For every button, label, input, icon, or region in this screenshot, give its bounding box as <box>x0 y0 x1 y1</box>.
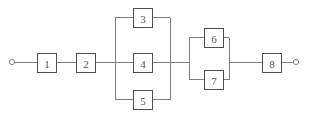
block-7[interactable]: 7 <box>205 71 224 90</box>
output-terminal <box>293 59 298 64</box>
block-8-label: 8 <box>269 58 275 70</box>
diagram-canvas: 12345678 <box>0 0 311 125</box>
block-1[interactable]: 1 <box>38 54 57 73</box>
reliability-block-diagram: 12345678 <box>0 0 311 125</box>
block-2[interactable]: 2 <box>77 54 96 73</box>
block-5[interactable]: 5 <box>134 91 153 110</box>
block-8[interactable]: 8 <box>263 54 282 73</box>
block-3[interactable]: 3 <box>134 9 153 28</box>
block-6[interactable]: 6 <box>205 29 224 48</box>
block-1-label: 1 <box>44 58 50 70</box>
block-5-label: 5 <box>140 95 146 107</box>
block-4[interactable]: 4 <box>134 54 153 73</box>
blocks-layer: 12345678 <box>38 9 282 110</box>
input-terminal <box>9 59 14 64</box>
block-2-label: 2 <box>83 58 89 70</box>
block-3-label: 3 <box>140 13 146 25</box>
block-7-label: 7 <box>211 75 217 87</box>
block-6-label: 6 <box>211 33 217 45</box>
block-4-label: 4 <box>140 58 146 70</box>
